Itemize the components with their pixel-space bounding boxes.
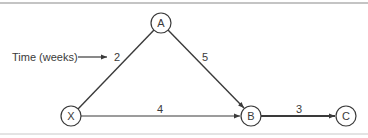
annotation-label: Time (weeks)	[12, 51, 78, 63]
node-x: X	[61, 106, 81, 126]
edge-x-a	[78, 30, 154, 109]
node-c-label: C	[342, 110, 350, 122]
edge-weight-x-a: 2	[114, 51, 120, 63]
edge-a-b	[168, 30, 244, 108]
edge-weight-x-b: 4	[157, 103, 163, 115]
node-a-label: A	[157, 17, 165, 29]
node-x-label: X	[67, 110, 75, 122]
network-diagram: Time (weeks) 2 5 4 3 A X B C	[0, 0, 368, 138]
node-b: B	[241, 106, 261, 126]
node-a: A	[151, 13, 171, 33]
edge-weight-b-c: 3	[296, 103, 302, 115]
node-b-label: B	[247, 110, 254, 122]
node-c: C	[336, 106, 356, 126]
edge-weight-a-b: 5	[202, 51, 208, 63]
